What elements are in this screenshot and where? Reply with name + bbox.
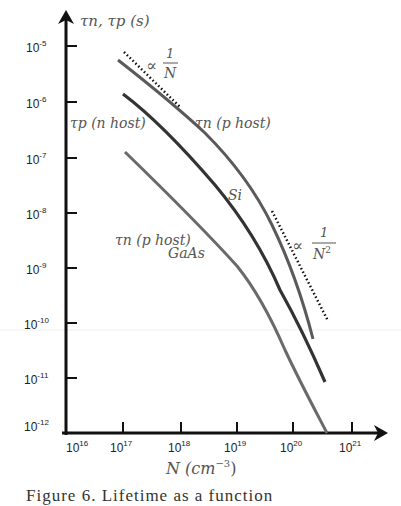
y-axis: 10-5 10-6 10-7 10-8 10-9 10-10 10-11 10-… [24,10,150,435]
annotation-prop-1-over-n-squared: ∝ 1 N2 [292,225,336,262]
svg-text:1: 1 [320,225,328,240]
y-tick-label: 10-7 [26,151,47,167]
label-si: Si [228,187,242,203]
annotation-prop-1-over-n: ∝ 1 N [146,46,178,81]
y-tick-label: 10-8 [26,206,47,222]
svg-text:1: 1 [166,46,174,61]
x-tick-label: 1021 [339,439,362,455]
x-axis: 1016 1017 1018 1019 1020 1021 N (cm−3) [62,422,388,478]
y-tick-label: 10-5 [26,39,47,55]
y-tick-label: 10-12 [24,418,49,434]
x-axis-title: N (cm−3) [165,458,236,478]
y-tick-label: 10-9 [26,261,47,277]
label-tau-p-n-host: τp (n host) [70,115,146,131]
label-tau-n-p-host-si: τn (p host) [195,115,271,131]
y-tick-label: 10-11 [24,371,49,387]
figure-caption: Figure 6. Lifetime as a function [26,486,273,506]
x-tick-label: 1020 [280,439,303,455]
x-tick-label: 1016 [66,439,89,455]
x-tick-label: 1019 [224,439,247,455]
svg-text:∝: ∝ [146,56,157,75]
x-tick-label: 1018 [168,439,191,455]
y-axis-title: τn, τp (s) [80,12,150,30]
svg-text:∝: ∝ [292,236,303,255]
x-tick-label: 1017 [110,439,133,455]
curve-tau-n-p-host-gaas [125,152,327,433]
label-gaas: GaAs [168,245,205,261]
y-tick-label: 10-6 [26,95,47,111]
svg-text:N: N [163,65,177,81]
label-n2: N2 [312,245,331,262]
